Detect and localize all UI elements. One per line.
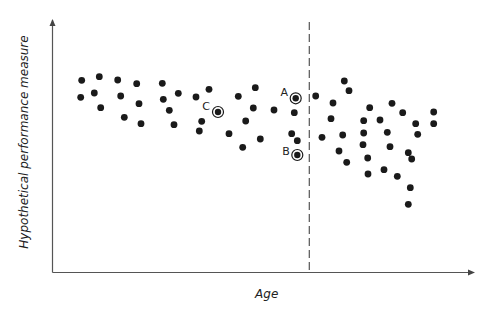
data-point: [97, 104, 104, 111]
data-point: [339, 132, 346, 139]
highlighted-points: ABC: [202, 86, 303, 161]
data-point: [366, 104, 373, 111]
data-point: [341, 78, 348, 85]
data-point: [336, 148, 343, 155]
data-point: [271, 107, 278, 114]
data-point: [291, 109, 298, 116]
data-point: [360, 141, 367, 148]
data-point: [159, 80, 166, 87]
data-point: [121, 114, 128, 121]
data-point: [175, 90, 182, 97]
data-point: [384, 129, 391, 136]
data-point: [414, 131, 421, 138]
data-point: [171, 121, 178, 128]
data-points: [77, 73, 437, 207]
data-point: [430, 109, 437, 116]
data-point: [405, 149, 412, 156]
data-point: [319, 134, 326, 141]
highlighted-point-a: A: [281, 86, 302, 104]
data-point: [138, 120, 145, 127]
data-point: [78, 77, 85, 84]
data-point: [343, 159, 350, 166]
data-point: [242, 118, 249, 125]
data-point: [399, 109, 406, 116]
data-point: [196, 128, 203, 135]
data-point: [96, 73, 103, 80]
data-point: [387, 143, 394, 150]
data-point: [114, 77, 121, 84]
highlighted-point-b: B: [282, 145, 303, 161]
data-point: [257, 136, 264, 143]
x-axis-label: Age: [254, 287, 278, 301]
data-point: [389, 100, 396, 107]
y-axis-label: Hypothetical performance measure: [17, 35, 31, 248]
data-point: [239, 144, 246, 151]
data-point: [328, 115, 335, 122]
data-point: [381, 166, 388, 173]
data-point: [408, 156, 415, 163]
data-point: [312, 93, 319, 100]
data-point: [252, 84, 259, 91]
data-point: [360, 130, 367, 137]
data-point: [250, 105, 257, 112]
highlighted-point-c: C: [202, 100, 223, 118]
data-point: [412, 120, 419, 127]
data-point: [288, 130, 295, 137]
data-point: [193, 94, 200, 101]
data-point: [346, 87, 353, 94]
data-point: [377, 117, 384, 124]
data-point: [235, 93, 242, 100]
data-point: [330, 100, 337, 107]
data-point: [91, 90, 98, 97]
data-point: [226, 130, 233, 137]
data-point: [133, 80, 140, 87]
point-label: C: [202, 100, 210, 113]
point-label: B: [282, 145, 290, 158]
data-point: [365, 171, 372, 178]
point-label: A: [281, 86, 289, 99]
data-point: [394, 173, 401, 180]
data-point: [206, 86, 213, 93]
data-point: [407, 184, 414, 191]
data-point: [160, 96, 167, 103]
data-point: [405, 201, 412, 208]
data-point: [430, 120, 437, 127]
data-point: [198, 118, 205, 125]
data-point: [136, 100, 143, 107]
data-point: [77, 94, 84, 101]
data-point: [294, 137, 301, 144]
scatter-chart: ABC Age Hypothetical performance measure: [0, 0, 490, 316]
data-point: [117, 93, 124, 100]
data-point: [364, 155, 371, 162]
data-point: [166, 107, 173, 114]
data-point: [360, 117, 367, 124]
